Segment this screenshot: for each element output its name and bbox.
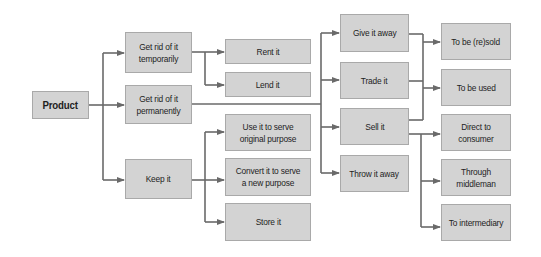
node-label: To be used xyxy=(456,82,495,94)
node-lend-it: Lend it xyxy=(225,72,311,97)
node-label: Sell it xyxy=(365,121,384,133)
node-label: Convert it to serve a new purpose xyxy=(233,165,303,189)
node-keep-it: Keep it xyxy=(125,159,192,199)
node-label: Product xyxy=(43,99,78,111)
node-give-it-away: Give it away xyxy=(340,14,409,52)
node-label: Use it to serve original purpose xyxy=(233,121,303,145)
node-store-it: Store it xyxy=(225,203,311,241)
node-use-original-purpose: Use it to serve original purpose xyxy=(225,114,311,151)
node-label: Throw it away xyxy=(350,168,399,180)
node-label: Give it away xyxy=(353,27,396,39)
node-to-be-used: To be used xyxy=(441,69,511,106)
node-rent-it: Rent it xyxy=(225,39,311,64)
node-label: To intermediary xyxy=(449,217,504,229)
node-label: Trade it xyxy=(361,75,388,87)
node-label: Lend it xyxy=(256,79,280,91)
product-disposition-diagram: Product Get rid of it temporarily Get ri… xyxy=(0,0,541,257)
node-label: Store it xyxy=(255,216,280,228)
node-label: Through middleman xyxy=(448,166,504,190)
node-label: To be (re)sold xyxy=(452,36,501,48)
node-through-middleman: Through middleman xyxy=(441,159,511,196)
node-to-intermediary: To intermediary xyxy=(441,204,511,241)
node-label: Get rid of it permanently xyxy=(132,93,186,117)
node-get-rid-permanently: Get rid of it permanently xyxy=(125,85,192,124)
node-to-be-resold: To be (re)sold xyxy=(441,23,511,60)
node-throw-it-away: Throw it away xyxy=(340,155,409,192)
node-label: Keep it xyxy=(146,173,171,185)
node-product: Product xyxy=(32,91,89,119)
node-label: Direct to consumer xyxy=(448,121,504,145)
node-trade-it: Trade it xyxy=(340,62,409,99)
node-sell-it: Sell it xyxy=(340,108,409,145)
node-convert-new-purpose: Convert it to serve a new purpose xyxy=(225,158,311,196)
node-label: Get rid of it temporarily xyxy=(132,41,186,65)
node-direct-to-consumer: Direct to consumer xyxy=(441,114,511,151)
node-get-rid-temporarily: Get rid of it temporarily xyxy=(125,32,192,73)
node-label: Rent it xyxy=(257,46,280,58)
